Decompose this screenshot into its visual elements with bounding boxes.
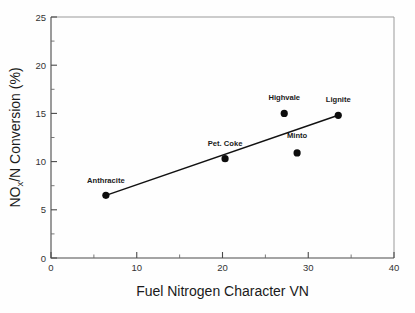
data-point-marker[interactable]	[281, 110, 288, 117]
x-axis-title: Fuel Nitrogen Character VN	[136, 283, 309, 299]
data-point-label: Minto	[287, 131, 308, 140]
data-point-label: Highvale	[268, 93, 300, 102]
data-point-label: Pet. Coke	[208, 139, 243, 148]
x-tick-label: 40	[389, 262, 400, 273]
x-tick-label: 0	[48, 262, 53, 273]
x-tick-label: 30	[303, 262, 314, 273]
y-tick-label: 10	[35, 156, 46, 167]
y-tick-label: 0	[41, 253, 46, 264]
svg-text:NOx/N Conversion (%): NOx/N Conversion (%)	[7, 67, 25, 207]
y-tick-label: 20	[35, 60, 46, 71]
data-point-label: Lignite	[326, 95, 351, 104]
data-point-marker[interactable]	[102, 192, 109, 199]
data-point-marker[interactable]	[221, 155, 228, 162]
trend-line	[106, 115, 338, 195]
y-tick-label: 5	[41, 204, 46, 215]
data-point-marker[interactable]	[335, 112, 342, 119]
chart-figure: 0102030400510152025AnthracitePet. CokeHi…	[0, 0, 415, 313]
scatter-plot: 0102030400510152025AnthracitePet. CokeHi…	[0, 0, 415, 313]
data-point-label: Anthracite	[87, 176, 125, 185]
y-tick-label: 25	[35, 12, 46, 23]
y-axis-title: NOx/N Conversion (%)	[7, 67, 25, 207]
data-point-marker[interactable]	[294, 149, 301, 156]
x-tick-label: 20	[217, 262, 228, 273]
x-tick-label: 10	[131, 262, 142, 273]
plot-frame	[51, 17, 394, 258]
y-tick-label: 15	[35, 108, 46, 119]
plot-axes	[51, 17, 394, 258]
